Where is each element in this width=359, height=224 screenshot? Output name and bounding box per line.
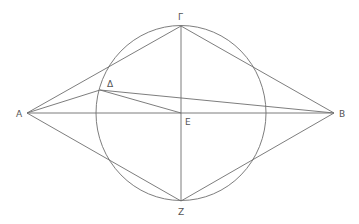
segment-z-b — [181, 113, 334, 201]
label-delta: Δ — [107, 79, 114, 89]
label-z: Z — [178, 207, 184, 217]
geometry-diagram: A B Γ Δ E Z — [0, 0, 359, 224]
label-e: E — [185, 117, 191, 127]
segment-a-delta — [27, 90, 100, 113]
segment-a-z — [27, 113, 181, 201]
label-a: A — [16, 109, 23, 119]
label-gamma: Γ — [178, 12, 183, 22]
segment-a-gamma — [27, 26, 181, 113]
label-b: B — [339, 109, 345, 119]
segment-delta-e — [100, 90, 181, 113]
